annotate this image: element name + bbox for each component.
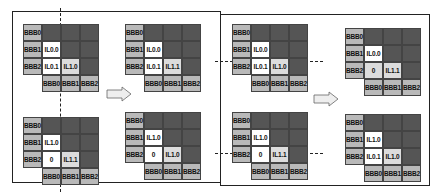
matrix-grid-mid-left-bottom: BBB0BBB1BBB2IL1.00IL1.0BBB0BBB1BBB2 (125, 112, 201, 181)
matrix-cell (163, 112, 182, 129)
row-label: BBB1 (125, 41, 144, 58)
right-arrow-icon (313, 91, 339, 107)
matrix-cell (402, 131, 421, 148)
matrix-cell (289, 112, 308, 129)
row-label: BBB2 (232, 58, 251, 75)
matrix-cell (182, 58, 201, 75)
col-label: BBB0 (251, 75, 270, 92)
matrix-cell (144, 112, 163, 129)
matrix-cell (61, 117, 80, 134)
matrix-cell (364, 114, 383, 131)
matrix-grid-left-top: BBB0BBB1BBB2IL0.0IL0.1IL1.0BBB0BBB1BBB2 (23, 24, 99, 93)
row-label: BBB2 (345, 62, 364, 79)
col-label: BBB2 (182, 75, 201, 92)
matrix-cell: IL1.0 (270, 58, 289, 75)
row-label: BBB2 (125, 146, 144, 163)
row-label: BBB0 (232, 24, 251, 41)
matrix-cell (163, 24, 182, 41)
matrix-cell: IL1.0 (364, 131, 383, 148)
matrix-cell: IL1.0 (42, 134, 61, 151)
matrix-grid-mid-right-top: BBB0BBB1BBB2IL0.0IL0.1IL1.0BBB0BBB1BBB2 (232, 24, 308, 93)
matrix-grid-mid-left-top: BBB0BBB1BBB2IL0.0IL0.1IL1.1BBB0BBB1BBB2 (125, 24, 201, 93)
matrix-cell (182, 24, 201, 41)
matrix-cell (270, 112, 289, 129)
col-label: BBB0 (364, 165, 383, 182)
matrix-cell (61, 24, 80, 41)
matrix-cell: 0 (251, 146, 270, 163)
col-label: BBB1 (383, 165, 402, 182)
col-label: BBB1 (163, 163, 182, 180)
matrix-cell (383, 114, 402, 131)
matrix-grid-left-bottom: BBB0BBB1BBB2IL1.00IL1.1BBB0BBB1BBB2 (23, 117, 99, 186)
matrix-cell (402, 148, 421, 165)
row-label: BBB1 (125, 129, 144, 146)
matrix-cell (182, 112, 201, 129)
row-label: BBB0 (125, 24, 144, 41)
matrix-cell (289, 129, 308, 146)
matrix-cell: 0 (42, 151, 61, 168)
matrix-cell (402, 114, 421, 131)
matrix-cell: IL0.0 (364, 45, 383, 62)
matrix-cell (163, 129, 182, 146)
matrix-cell (42, 117, 61, 134)
matrix-cell (182, 41, 201, 58)
matrix-cell (182, 129, 201, 146)
matrix-cell (144, 24, 163, 41)
matrix-cell (289, 146, 308, 163)
matrix-cell (270, 41, 289, 58)
matrix-cell: IL1.1 (383, 62, 402, 79)
matrix-cell: IL0.1 (251, 58, 270, 75)
row-label: BBB1 (232, 129, 251, 146)
col-label: BBB1 (383, 79, 402, 96)
matrix-grid-mid-right-bottom: BBB0BBB1BBB2IL1.00IL1.1BBB0BBB1BBB2 (232, 112, 308, 181)
matrix-cell (270, 24, 289, 41)
row-label: BBB0 (23, 24, 42, 41)
matrix-cell: 0 (364, 62, 383, 79)
matrix-cell: IL1.1 (61, 151, 80, 168)
matrix-cell: IL0.1 (144, 58, 163, 75)
col-label: BBB2 (289, 75, 308, 92)
matrix-cell: IL0.0 (42, 41, 61, 58)
row-label: BBB2 (232, 146, 251, 163)
matrix-grid-right-bottom: BBB0BBB1BBB2IL1.0IL0.1IL1.0BBB0BBB1BBB2 (345, 114, 421, 183)
matrix-cell (61, 41, 80, 58)
row-label: BBB0 (345, 114, 364, 131)
matrix-cell (289, 24, 308, 41)
matrix-cell: IL0.0 (144, 41, 163, 58)
matrix-cell (163, 41, 182, 58)
matrix-cell (289, 58, 308, 75)
col-label: BBB0 (144, 75, 163, 92)
matrix-cell (251, 112, 270, 129)
col-label: BBB2 (182, 163, 201, 180)
matrix-cell (61, 134, 80, 151)
matrix-cell (383, 45, 402, 62)
matrix-cell: IL0.0 (251, 41, 270, 58)
col-label: BBB1 (163, 75, 182, 92)
col-label: BBB1 (270, 163, 289, 180)
row-label: BBB1 (232, 41, 251, 58)
col-label: BBB2 (80, 168, 99, 185)
col-label: BBB2 (80, 75, 99, 92)
col-label: BBB0 (42, 168, 61, 185)
row-label: BBB1 (23, 41, 42, 58)
col-label: BBB2 (402, 165, 421, 182)
col-label: BBB1 (61, 75, 80, 92)
matrix-grid-right-top: BBB0BBB1BBB2IL0.00IL1.1BBB0BBB1BBB2 (345, 28, 421, 97)
matrix-cell (80, 151, 99, 168)
row-label: BBB2 (23, 151, 42, 168)
matrix-cell (383, 131, 402, 148)
matrix-cell (182, 146, 201, 163)
row-label: BBB0 (23, 117, 42, 134)
col-label: BBB1 (61, 168, 80, 185)
matrix-cell (402, 62, 421, 79)
right-arrow-icon (106, 86, 132, 102)
matrix-cell (80, 41, 99, 58)
row-label: BBB0 (232, 112, 251, 129)
matrix-cell: IL1.0 (163, 146, 182, 163)
matrix-cell: IL1.1 (270, 146, 289, 163)
row-label: BBB1 (345, 131, 364, 148)
matrix-cell (80, 58, 99, 75)
matrix-cell (270, 129, 289, 146)
row-label: BBB0 (125, 112, 144, 129)
matrix-cell (80, 117, 99, 134)
